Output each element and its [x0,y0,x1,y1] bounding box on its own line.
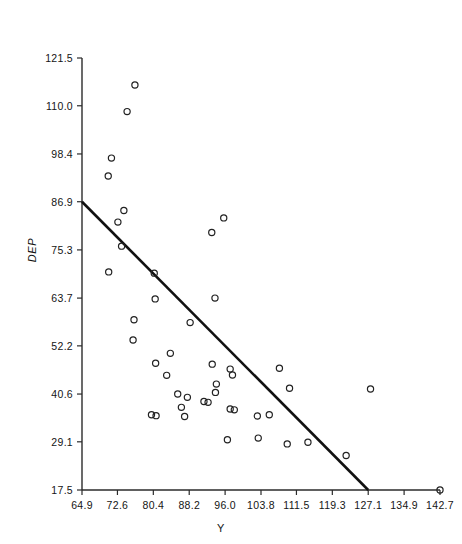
data-point [167,350,173,356]
data-point [118,243,124,249]
x-tick-label: 127.1 [354,499,382,511]
data-point [212,295,218,301]
x-axis-title: Y [217,522,225,534]
data-point [175,391,181,397]
data-point [108,155,114,161]
data-point [343,452,349,458]
data-point [286,385,292,391]
y-axis-tick-labels: 17.529.140.652.263.775.386.998.4110.0121… [45,52,73,496]
data-point [254,413,260,419]
data-point [224,437,230,443]
x-tick-label: 111.5 [283,499,309,511]
y-tick-label: 52.2 [51,340,73,352]
data-point [213,381,219,387]
x-tick-label: 142.7 [426,499,454,511]
data-point [187,320,193,326]
x-tick-label: 72.6 [107,499,129,511]
data-point [255,435,261,441]
data-point [130,337,136,343]
data-point [205,399,211,405]
data-point [276,365,282,371]
x-axis-tick-labels: 64.972.680.488.296.0103.8111.5119.3127.1… [71,499,454,511]
y-tick-label: 98.4 [51,148,73,160]
x-tick-label: 103.8 [247,499,275,511]
data-point [132,82,138,88]
x-tick-label: 64.9 [71,499,93,511]
data-point [229,372,235,378]
y-tick-label: 86.9 [51,196,73,208]
data-point [178,404,184,410]
data-point [209,229,215,235]
scatter-plot-figure: 64.972.680.488.296.0103.8111.5119.3127.1… [0,0,462,544]
data-point [221,215,227,221]
data-point [121,207,127,213]
data-point [184,394,190,400]
tick-marks [77,58,440,495]
axes [82,58,440,490]
data-point [131,317,137,323]
data-point [212,389,218,395]
y-tick-label: 40.6 [51,388,73,400]
y-tick-label: 63.7 [51,292,73,304]
data-point [284,441,290,447]
y-tick-label: 110.0 [46,100,73,112]
data-points [105,82,443,493]
data-point [115,219,121,225]
x-tick-label: 134.9 [390,499,418,511]
data-point [266,412,272,418]
plot-canvas: 64.972.680.488.296.0103.8111.5119.3127.1… [0,0,462,544]
y-tick-label: 17.5 [51,484,73,496]
data-point [152,296,158,302]
data-point [305,439,311,445]
x-tick-label: 80.4 [143,499,165,511]
data-point [153,360,159,366]
x-tick-label: 119.3 [319,499,346,511]
data-point [367,386,373,392]
data-point [209,361,215,367]
x-tick-label: 96.0 [214,499,236,511]
data-point [164,372,170,378]
y-axis-title: DEP [26,238,38,262]
x-tick-label: 88.2 [178,499,200,511]
data-point [231,407,237,413]
data-point [105,173,111,179]
y-tick-label: 121.5 [45,52,73,64]
data-point [124,108,130,114]
y-tick-label: 29.1 [51,436,73,448]
data-point [182,413,188,419]
y-tick-label: 75.3 [51,244,73,256]
data-point [106,269,112,275]
